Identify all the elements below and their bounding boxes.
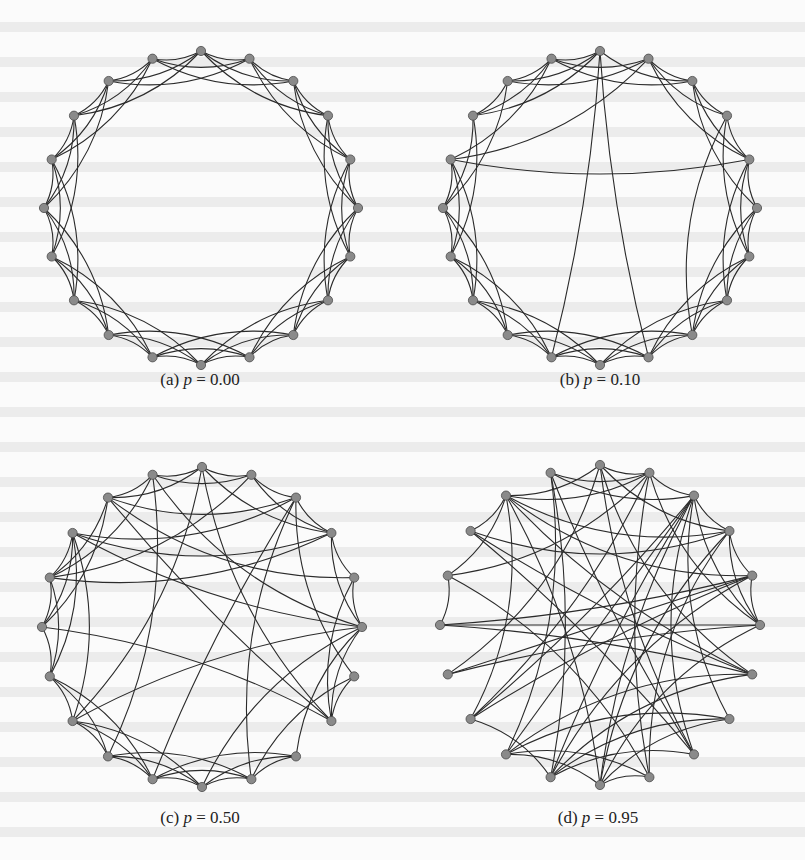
- graph-edge: [74, 51, 201, 116]
- graph-node-icon: [503, 330, 512, 339]
- graph-edge: [293, 81, 358, 208]
- graph-node-icon: [323, 296, 332, 305]
- graph-panel-c: [37, 462, 366, 791]
- graph-node-icon: [435, 620, 444, 629]
- graph-node-icon: [745, 155, 754, 164]
- graph-edge: [296, 498, 354, 677]
- graph-node-icon: [346, 155, 355, 164]
- graph-edge: [471, 496, 506, 531]
- graph-edge: [552, 59, 693, 85]
- graph-edge: [440, 625, 752, 674]
- graph-edge: [506, 496, 729, 538]
- graph-node-icon: [37, 622, 46, 631]
- graph-edge: [293, 208, 358, 335]
- graph-node-icon: [595, 360, 604, 369]
- graph-edge: [251, 475, 296, 498]
- graph-panel-d: [435, 460, 764, 789]
- graph-edge: [471, 531, 730, 554]
- graph-node-icon: [547, 353, 556, 362]
- graph-edge: [296, 627, 362, 756]
- graph-node-icon: [443, 571, 452, 580]
- caption-label: (d): [558, 808, 578, 827]
- caption-symbol: p: [584, 370, 593, 389]
- graph-node-icon: [468, 111, 477, 120]
- graph-node-icon: [468, 296, 477, 305]
- graph-node-icon: [446, 155, 455, 164]
- caption-d: (d) p = 0.95: [558, 808, 638, 828]
- graph-node-icon: [689, 750, 698, 759]
- graph-edge: [202, 627, 362, 787]
- graph-node-icon: [748, 571, 757, 580]
- graph-edge: [694, 496, 729, 531]
- graph-node-icon: [291, 493, 300, 502]
- graph-node-icon: [745, 252, 754, 261]
- graph-edge: [50, 676, 153, 779]
- graph-edge: [600, 300, 727, 365]
- graph-node-icon: [725, 714, 734, 723]
- graph-edge: [600, 465, 752, 674]
- graph-edge: [649, 59, 750, 160]
- graph-node-icon: [644, 353, 653, 362]
- caption-symbol: p: [183, 370, 192, 389]
- graph-node-icon: [722, 111, 731, 120]
- graph-node-icon: [45, 672, 54, 681]
- graph-node-icon: [45, 573, 54, 582]
- graph-edge: [52, 257, 153, 358]
- graph-node-icon: [291, 752, 300, 761]
- graph-edge: [506, 750, 649, 777]
- graph-edge: [153, 475, 362, 627]
- graph-edge: [551, 719, 730, 777]
- graph-edge: [202, 467, 331, 721]
- graph-edge: [73, 721, 108, 756]
- caption-value: 0.50: [210, 808, 240, 827]
- graph-edge: [448, 625, 760, 674]
- graph-node-icon: [346, 252, 355, 261]
- graph-edge: [353, 578, 362, 627]
- graph-edge: [251, 676, 354, 779]
- graph-node-icon: [245, 54, 254, 63]
- graph-edge: [688, 496, 730, 719]
- graph-node-icon: [755, 620, 764, 629]
- graph-edge: [201, 300, 328, 365]
- graph-node-icon: [68, 528, 77, 537]
- graph-edge: [50, 475, 153, 578]
- graph-node-icon: [148, 470, 157, 479]
- graph-edge: [42, 498, 108, 627]
- graph-node-icon: [197, 462, 206, 471]
- graph-node-icon: [39, 203, 48, 212]
- graph-edge: [451, 59, 552, 160]
- graph-node-icon: [247, 470, 256, 479]
- graph-node-icon: [546, 468, 555, 477]
- graph-edge: [600, 465, 729, 531]
- graph-edge: [473, 300, 600, 365]
- graph-edge: [443, 208, 508, 335]
- graph-edge: [440, 576, 449, 625]
- caption-symbol: p: [582, 808, 591, 827]
- graph-node-icon: [247, 775, 256, 784]
- graph-edge: [153, 498, 296, 780]
- graph-node-icon: [104, 330, 113, 339]
- caption-value: 0.00: [210, 370, 240, 389]
- graph-panel-b: [438, 46, 761, 369]
- caption-b: (b) p = 0.10: [560, 370, 640, 390]
- watts-strogatz-figure: [0, 0, 805, 860]
- graph-edge: [250, 59, 351, 160]
- graph-panel-a: [39, 46, 362, 369]
- graph-edge: [246, 498, 296, 780]
- caption-c: (c) p = 0.50: [160, 808, 239, 828]
- graph-node-icon: [645, 468, 654, 477]
- graph-node-icon: [327, 716, 336, 725]
- graph-node-icon: [357, 622, 366, 631]
- graph-edge: [201, 51, 328, 116]
- graph-edge: [202, 467, 331, 533]
- graph-node-icon: [501, 491, 510, 500]
- graph-edge: [506, 473, 649, 500]
- graph-edge: [649, 473, 760, 625]
- graph-edge: [694, 496, 760, 625]
- graph-edge: [73, 721, 202, 787]
- graph-node-icon: [353, 203, 362, 212]
- graph-node-icon: [446, 252, 455, 261]
- graph-edge: [551, 576, 753, 778]
- graph-node-icon: [748, 670, 757, 679]
- graph-node-icon: [688, 330, 697, 339]
